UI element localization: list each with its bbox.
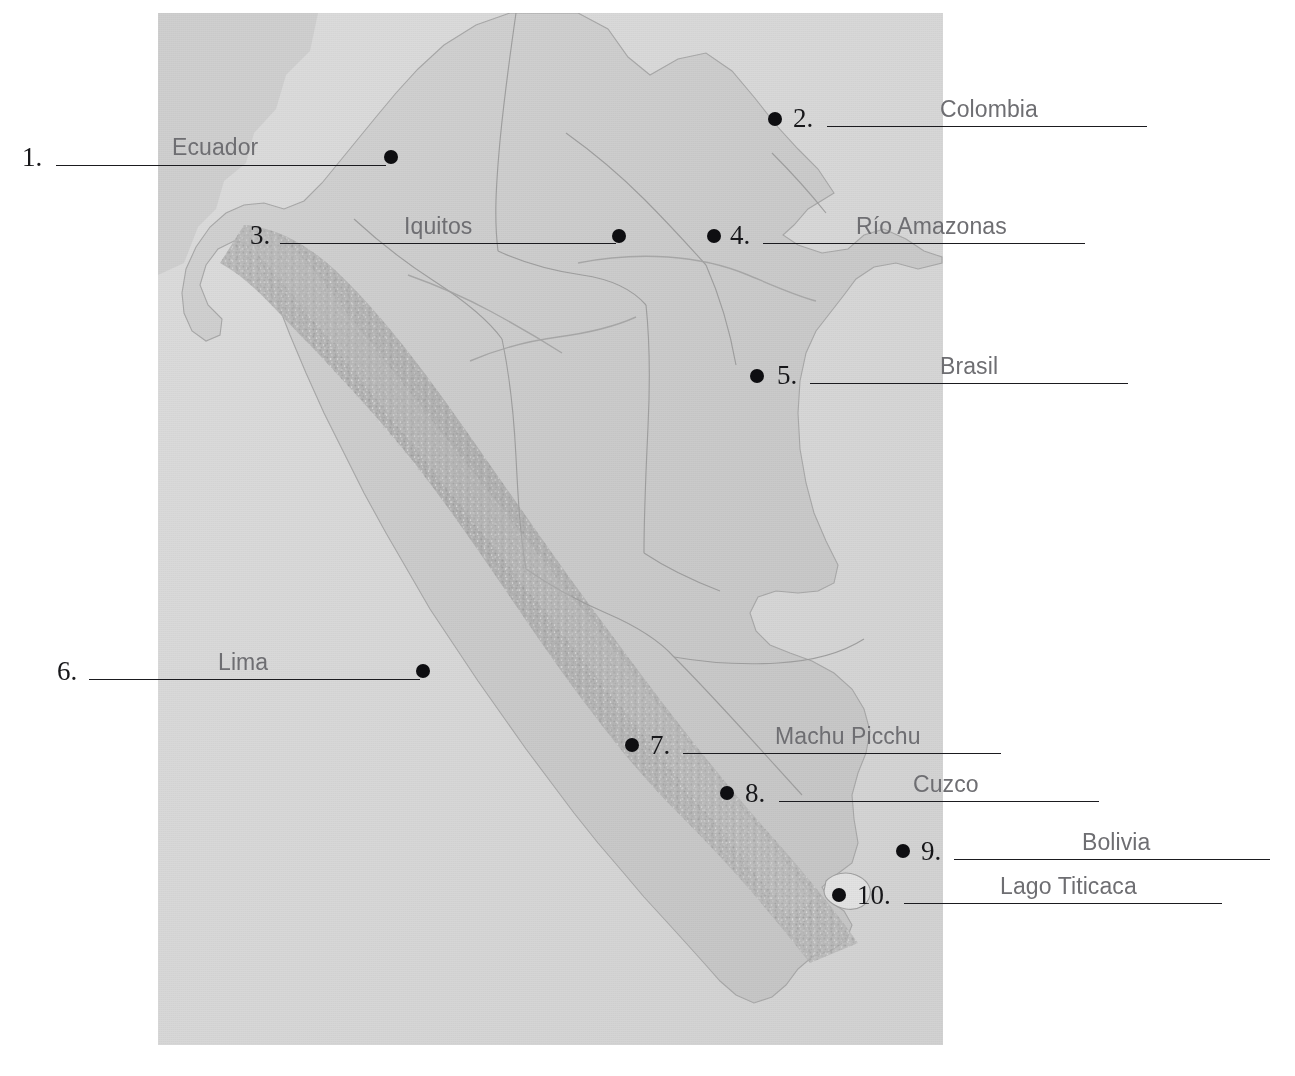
- peru-map-graphic: [158, 13, 943, 1045]
- answer-line[interactable]: [683, 753, 1001, 754]
- place-name-label: Colombia: [940, 98, 1038, 121]
- place-name-label: Iquitos: [404, 215, 472, 238]
- answer-line[interactable]: [763, 243, 1085, 244]
- location-marker-dot: [625, 738, 639, 752]
- callout-number: 3.: [250, 222, 270, 249]
- callout-number: 2.: [793, 105, 813, 132]
- callout-number: 5.: [777, 362, 797, 389]
- place-name-label: Machu Picchu: [775, 725, 921, 748]
- callout-number: 8.: [745, 780, 765, 807]
- place-name-label: Ecuador: [172, 136, 258, 159]
- callout-number: 10.: [857, 882, 891, 909]
- callout-number: 9.: [921, 838, 941, 865]
- callout-number: 7.: [650, 732, 670, 759]
- place-name-label: Río Amazonas: [856, 215, 1007, 238]
- answer-line[interactable]: [280, 243, 616, 244]
- map-panel: [158, 13, 943, 1045]
- answer-line[interactable]: [954, 859, 1270, 860]
- place-name-label: Brasil: [940, 355, 998, 378]
- answer-line[interactable]: [904, 903, 1222, 904]
- place-name-label: Lima: [218, 651, 268, 674]
- location-marker-dot: [750, 369, 764, 383]
- answer-line[interactable]: [779, 801, 1099, 802]
- callout-number: 1.: [22, 144, 42, 171]
- answer-line[interactable]: [89, 679, 420, 680]
- location-marker-dot: [768, 112, 782, 126]
- location-marker-dot: [612, 229, 626, 243]
- location-marker-dot: [720, 786, 734, 800]
- location-marker-dot: [707, 229, 721, 243]
- answer-line[interactable]: [827, 126, 1147, 127]
- location-marker-dot: [416, 664, 430, 678]
- callout-number: 4.: [730, 222, 750, 249]
- map-worksheet: 1.Ecuador2.Colombia3.Iquitos4.Río Amazon…: [0, 0, 1295, 1076]
- location-marker-dot: [896, 844, 910, 858]
- place-name-label: Bolivia: [1082, 831, 1150, 854]
- answer-line[interactable]: [810, 383, 1128, 384]
- location-marker-dot: [832, 888, 846, 902]
- answer-line[interactable]: [56, 165, 386, 166]
- callout-number: 6.: [57, 658, 77, 685]
- place-name-label: Cuzco: [913, 773, 979, 796]
- place-name-label: Lago Titicaca: [1000, 875, 1137, 898]
- location-marker-dot: [384, 150, 398, 164]
